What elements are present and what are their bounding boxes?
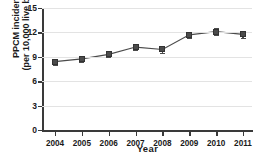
x-axis-tick-mark — [82, 131, 83, 136]
x-axis-tick-mark — [216, 131, 217, 136]
y-axis-tick-label: 12 — [20, 27, 37, 37]
data-point-marker — [240, 31, 246, 37]
y-axis-tick-mark — [38, 106, 42, 107]
error-bar-cap — [53, 65, 58, 66]
error-bar-cap — [241, 38, 246, 39]
y-axis-tick-label: 6 — [20, 76, 37, 86]
x-axis-tick-mark — [109, 131, 110, 136]
gridline — [42, 81, 252, 82]
data-point-marker — [79, 56, 85, 62]
x-axis-tick-mark — [162, 131, 163, 136]
data-point-marker — [52, 59, 58, 65]
y-axis-tick-mark — [38, 8, 42, 9]
x-axis-tick-mark — [243, 131, 244, 136]
gridline — [42, 106, 252, 107]
y-axis-tick-mark — [38, 57, 42, 58]
error-bar-cap — [214, 35, 219, 36]
x-axis-line — [42, 130, 253, 132]
series-line — [42, 8, 252, 130]
y-axis-tick-mark — [38, 32, 42, 33]
error-bar-cap — [187, 38, 192, 39]
y-axis-tick-label: 15 — [20, 3, 37, 13]
ppcm-incidence-line-chart: PPCM incidence (per 10,000 live births) … — [0, 0, 261, 162]
error-bar-cap — [160, 53, 165, 54]
data-point-marker — [213, 29, 219, 35]
error-bar-cap — [79, 62, 84, 63]
y-axis-tick-mark — [38, 130, 42, 131]
gridline — [42, 32, 252, 33]
data-point-marker — [159, 46, 165, 52]
x-axis-tick-mark — [189, 131, 190, 136]
x-axis-tick-mark — [55, 131, 56, 136]
y-axis-tick-label: 9 — [20, 52, 37, 62]
y-axis-tick-label: 0 — [20, 125, 37, 135]
y-axis-tick-label: 3 — [20, 101, 37, 111]
plot-area: 0369121520042005200620072008200920102011 — [42, 8, 252, 130]
error-bar-cap — [133, 50, 138, 51]
x-axis-tick-mark — [136, 131, 137, 136]
gridline — [42, 57, 252, 58]
gridline — [42, 8, 252, 9]
error-bar-cap — [106, 57, 111, 58]
data-point-marker — [106, 51, 112, 57]
data-point-marker — [133, 44, 139, 50]
x-axis-title: Year — [42, 143, 253, 154]
y-axis-tick-mark — [38, 81, 42, 82]
data-point-marker — [186, 32, 192, 38]
